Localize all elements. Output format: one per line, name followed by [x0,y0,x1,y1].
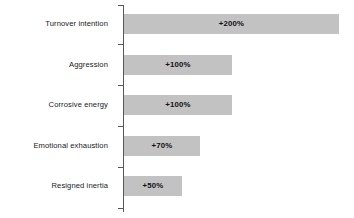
plot-area: Turnover intention +200% Aggression +100… [0,0,354,218]
bar-category-label: Resigned inertia [0,180,108,191]
axis-tick [118,208,123,209]
bar-row: Corrosive energy +100% [0,95,354,115]
bar-row: Turnover intention +200% [0,14,354,34]
bar-category-label: Emotional exhaustion [0,140,108,151]
bar-category-label: Aggression [0,59,108,70]
axis-tick [118,126,123,127]
bar-value-label: +50% [124,176,182,196]
axis-tick [118,44,123,45]
bar-value-label: +100% [124,55,232,75]
bar-category-label: Turnover intention [0,18,108,29]
bar-value-label: +70% [124,136,200,156]
bar-row: Aggression +100% [0,55,354,75]
bar-value-label: +100% [124,95,232,115]
bar-row: Resigned inertia +50% [0,176,354,196]
bar-value-label: +200% [124,14,339,34]
horizontal-bar-chart: Turnover intention +200% Aggression +100… [0,0,354,218]
bar-category-label: Corrosive energy [0,99,108,110]
axis-tick [118,167,123,168]
bar-row: Emotional exhaustion +70% [0,136,354,156]
axis-tick [118,5,123,6]
axis-tick [118,85,123,86]
